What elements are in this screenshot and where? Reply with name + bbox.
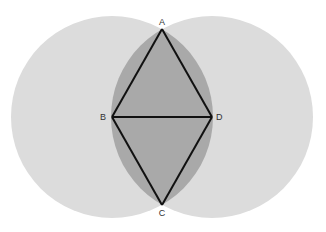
- label-b: B: [100, 112, 106, 122]
- label-c: C: [159, 208, 166, 218]
- label-d: D: [216, 112, 223, 122]
- label-a: A: [159, 17, 165, 27]
- vesica-diagram: A B D C: [0, 0, 326, 232]
